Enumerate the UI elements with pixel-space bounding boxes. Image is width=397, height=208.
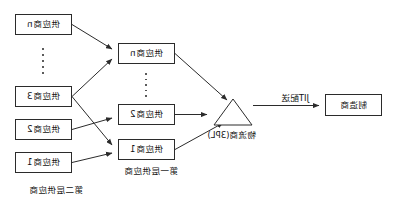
tier2-caption: 第二层供应商: [29, 183, 83, 195]
tier1-caption: 第一层供应商: [124, 164, 178, 176]
edge-tier2-n-to-tier1-n: [72, 25, 112, 50]
tier2-ellipsis-icon: [41, 48, 45, 74]
tier1-ellipsis-icon: [144, 73, 148, 97]
node-manufacturer-label: 制造商: [340, 101, 368, 110]
edge-tier1-n-to-3pl: [175, 54, 227, 101]
edge-tier2-2-to-tier1-2: [72, 118, 112, 130]
node-logistics-3pl-label: 物流商(3PL): [185, 128, 279, 140]
node-tier2-supplier-1-label: 供应商1: [27, 158, 60, 167]
node-tier1-supplier-1-label: 供应商1: [130, 145, 163, 154]
node-tier2-supplier-2-label: 供应商2: [27, 125, 60, 134]
triangle-icon: [213, 98, 253, 126]
node-manufacturer[interactable]: 制造商: [325, 94, 382, 116]
node-tier1-supplier-1[interactable]: 供应商1: [118, 139, 175, 160]
edge-tier2-1-to-tier1-1: [72, 153, 112, 163]
jit-delivery-label: JIT配送: [281, 91, 309, 103]
edge-tier2-3-to-tier1-n: [72, 59, 112, 97]
node-tier2-supplier-2[interactable]: 供应商2: [15, 119, 72, 140]
node-tier1-supplier-n-label: 供应商n: [130, 49, 163, 58]
node-tier1-supplier-n[interactable]: 供应商n: [118, 43, 175, 64]
node-tier1-supplier-2[interactable]: 供应商2: [118, 104, 175, 125]
node-logistics-3pl[interactable]: [213, 98, 253, 126]
node-tier2-supplier-3[interactable]: 供应商3: [15, 86, 72, 107]
node-tier2-supplier-n[interactable]: 供应商n: [15, 14, 72, 35]
diagram-canvas: 制造商 JIT配送 物流商(3PL) 供应商1 供应商2 供应商n 第一层供应商…: [0, 0, 397, 208]
node-tier1-supplier-2-label: 供应商2: [130, 110, 163, 119]
node-tier2-supplier-1[interactable]: 供应商1: [15, 152, 72, 173]
edge-tier2-3-to-tier1-1: [72, 97, 112, 146]
node-tier2-supplier-n-label: 供应商n: [27, 20, 60, 29]
node-tier2-supplier-3-label: 供应商3: [27, 92, 60, 101]
